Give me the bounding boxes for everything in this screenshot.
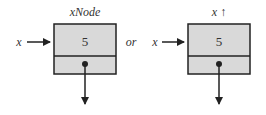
left-pointer-label: x [15,35,22,49]
linked-node-diagram: xNode x 5 or x ↑ x 5 [0,0,266,115]
or-connector-label: or [126,35,137,49]
right-pointer-label: x [151,35,158,49]
left-node-label: xNode [69,5,101,19]
left-node-group: xNode x 5 [15,5,116,104]
right-node-group: x ↑ x 5 [151,5,250,104]
left-node-value: 5 [82,34,89,49]
right-node-label: x ↑ [211,5,226,19]
right-node-value: 5 [216,34,223,49]
